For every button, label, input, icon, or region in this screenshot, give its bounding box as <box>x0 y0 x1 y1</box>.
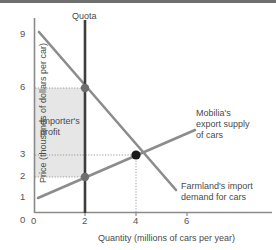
x-axis-title: Quantity (millions of cars per year) <box>98 233 235 243</box>
y-tick-label-2: 2 <box>20 171 25 182</box>
y-axis-title: Price (thousands of dollars per car) <box>38 43 48 183</box>
y-tick-label-0: 0 <box>20 215 25 226</box>
y-tick-label-9: 9 <box>20 29 25 40</box>
y-tick-label-1: 1 <box>20 192 25 203</box>
x-tick-label-2: 2 <box>82 216 87 227</box>
y-axis-title-wrapper: Price (thousands of dollars per car) <box>32 28 50 198</box>
quota-demand-point <box>81 84 89 92</box>
x-tick-label-6: 6 <box>184 216 189 227</box>
economics-quota-chart: 9 6 3 2 1 0 0 2 4 6 Quota Importer's pro… <box>0 0 276 250</box>
quota-supply-point <box>81 173 89 181</box>
x-tick-label-0: 0 <box>31 216 36 227</box>
supply-label-line1: Mobilia's <box>196 108 231 118</box>
supply-label-line3: of cars <box>196 130 223 140</box>
demand-label-line1: Farmland's import <box>181 181 253 191</box>
demand-label-line2: demand for cars <box>181 192 246 202</box>
quota-label: Quota <box>72 11 97 21</box>
free-trade-equilibrium-point <box>131 150 140 159</box>
supply-label-line2: export supply <box>196 119 250 129</box>
y-tick-label-3: 3 <box>20 149 25 160</box>
y-tick-label-6: 6 <box>20 82 25 93</box>
x-tick-label-4: 4 <box>133 216 138 227</box>
